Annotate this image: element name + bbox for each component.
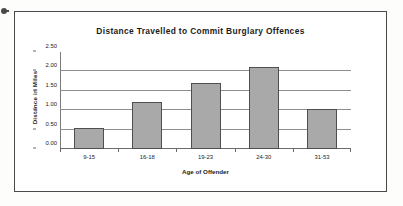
bar-slot: [293, 52, 351, 149]
bar[interactable]: [249, 67, 279, 149]
bar[interactable]: [132, 102, 162, 149]
bar-slot: [176, 52, 234, 149]
y-axis-tick-mark: [33, 109, 36, 110]
y-axis-tick-label: 0.00: [37, 140, 57, 146]
y-axis-tick-mark: [33, 51, 36, 52]
bar[interactable]: [307, 109, 337, 149]
bar[interactable]: [74, 128, 104, 149]
bar-slot: [235, 52, 293, 149]
y-axis-tick-label: 1.50: [37, 82, 57, 88]
y-axis-tick-label: 2.00: [37, 62, 57, 68]
x-axis-tick-label: 16-18: [118, 154, 176, 160]
y-axis-tick-labels: 0.000.501.001.502.002.50: [37, 52, 57, 149]
y-axis-tick-mark: [33, 70, 36, 71]
y-axis-tick-mark: [33, 89, 36, 90]
y-axis-tick-mark: [33, 148, 36, 149]
chart-frame: Distance Travelled to Commit Burglary Of…: [14, 11, 387, 192]
bar-slot: [118, 52, 176, 149]
chart-title: Distance Travelled to Commit Burglary Of…: [15, 26, 386, 36]
x-axis-tick-mark: [293, 149, 294, 152]
x-axis-tick-label: 9-15: [60, 154, 118, 160]
y-axis-tick-mark: [33, 128, 36, 129]
y-axis-tick-label: 2.50: [37, 43, 57, 49]
x-axis-tick-mark: [350, 149, 351, 152]
x-axis-tick-mark: [60, 149, 61, 152]
x-axis-tick-mark: [118, 149, 119, 152]
x-axis-tick-mark: [235, 149, 236, 152]
x-axis-title: Age of Offender: [60, 168, 351, 175]
plot-area: 0.000.501.001.502.002.50: [60, 52, 351, 149]
bar-series: [60, 52, 351, 149]
x-axis-tick-label: 31-53: [293, 154, 351, 160]
x-axis-tick-labels: 9-1516-1819-2324-3031-53: [60, 154, 351, 160]
scan-artifact-speck: [1, 8, 7, 14]
y-axis-tick-label: 0.50: [37, 121, 57, 127]
bar-slot: [60, 52, 118, 149]
x-axis-tick-label: 19-23: [176, 154, 234, 160]
x-axis-tick-label: 24-30: [235, 154, 293, 160]
bar[interactable]: [191, 83, 221, 149]
x-axis-tick-mark: [176, 149, 177, 152]
y-axis-tick-label: 1.00: [37, 101, 57, 107]
